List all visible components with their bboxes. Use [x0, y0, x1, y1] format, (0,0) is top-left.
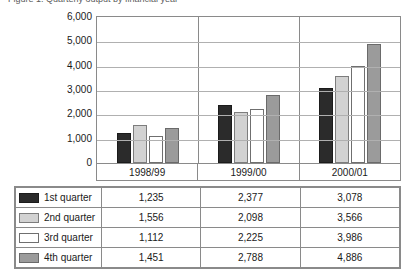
table-cell-value: 2,788 [201, 248, 300, 268]
legend-label: 2nd quarter [44, 212, 95, 223]
gridline [97, 140, 400, 141]
gridline [97, 67, 400, 68]
data-table-body: 1st quarter1,2352,3773,0782nd quarter1,5… [16, 188, 400, 268]
bar-group [97, 17, 198, 163]
table-row: 3rd quarter1,1122,2253,986 [16, 228, 400, 248]
y-tick-label: 6,000 [4, 12, 92, 22]
y-axis-tick-labels: 6,0005,0004,0003,0002,0001,0000 [0, 16, 92, 164]
y-tick-label: 5,000 [4, 36, 92, 46]
bar [319, 88, 333, 163]
gridline [97, 115, 400, 116]
y-tick-label: 2,000 [4, 109, 92, 119]
category-label: 1998/99 [97, 164, 197, 180]
y-tick-label: 3,000 [4, 85, 92, 95]
figure-title-text: Figure 1: Quarterly output by financial … [8, 0, 404, 4]
table-cell-value: 4,886 [300, 248, 399, 268]
plot-area [96, 16, 401, 164]
table-cell-value: 3,078 [300, 188, 399, 208]
table-row: 2nd quarter1,5562,0983,566 [16, 208, 400, 228]
table-cell-value: 1,112 [102, 228, 201, 248]
bar [266, 95, 280, 163]
legend-entry: 2nd quarter [19, 212, 101, 223]
legend-label: 4th quarter [44, 252, 92, 263]
table-cell-value: 1,451 [102, 248, 201, 268]
y-tick-label: 4,000 [4, 61, 92, 71]
legend-swatch-icon [19, 193, 39, 203]
category-label: 1999/00 [197, 164, 298, 180]
table-cell-value: 3,566 [300, 208, 399, 228]
table-cell-value: 1,556 [102, 208, 201, 228]
legend-swatch-icon [19, 233, 39, 243]
bar [250, 109, 264, 163]
bar [335, 76, 349, 163]
legend-label: 3rd quarter [44, 232, 93, 243]
table-cell-value: 2,098 [201, 208, 300, 228]
data-table: 1st quarter1,2352,3773,0782nd quarter1,5… [15, 187, 400, 268]
bar [117, 133, 131, 163]
table-row: 4th quarter1,4512,7884,886 [16, 248, 400, 268]
y-tick-label: 1,000 [4, 134, 92, 144]
category-label: 2000/01 [299, 164, 400, 180]
legend-label: 1st quarter [44, 192, 92, 203]
legend-swatch-icon [19, 213, 39, 223]
bar [367, 44, 381, 163]
legend-cell: 2nd quarter [16, 208, 102, 228]
legend-entry: 3rd quarter [19, 232, 101, 243]
bar [133, 125, 147, 163]
y-tick-label: 0 [4, 158, 92, 168]
table-cell-value: 2,225 [201, 228, 300, 248]
bar-group [299, 17, 400, 163]
table-cell-value: 2,377 [201, 188, 300, 208]
legend-cell: 4th quarter [16, 248, 102, 268]
legend-entry: 4th quarter [19, 252, 101, 263]
legend-entry: 1st quarter [19, 192, 101, 203]
bar-group [198, 17, 299, 163]
bar-groups [97, 17, 400, 163]
legend-swatch-icon [19, 253, 39, 263]
table-cell-value: 1,235 [102, 188, 201, 208]
gridline [97, 42, 400, 43]
bar [234, 112, 248, 163]
legend-cell: 1st quarter [16, 188, 102, 208]
gridline [97, 91, 400, 92]
table-cell-value: 3,986 [300, 228, 399, 248]
chart-figure: Figure 1: Quarterly output by financial … [0, 0, 412, 279]
category-header-row: 1998/991999/002000/01 [96, 164, 401, 181]
data-legend-table: 1st quarter1,2352,3773,0782nd quarter1,5… [14, 186, 401, 269]
bar [165, 128, 179, 163]
figure-title-cropped: Figure 1: Quarterly output by financial … [8, 0, 404, 5]
table-row: 1st quarter1,2352,3773,078 [16, 188, 400, 208]
legend-cell: 3rd quarter [16, 228, 102, 248]
bar [218, 105, 232, 163]
